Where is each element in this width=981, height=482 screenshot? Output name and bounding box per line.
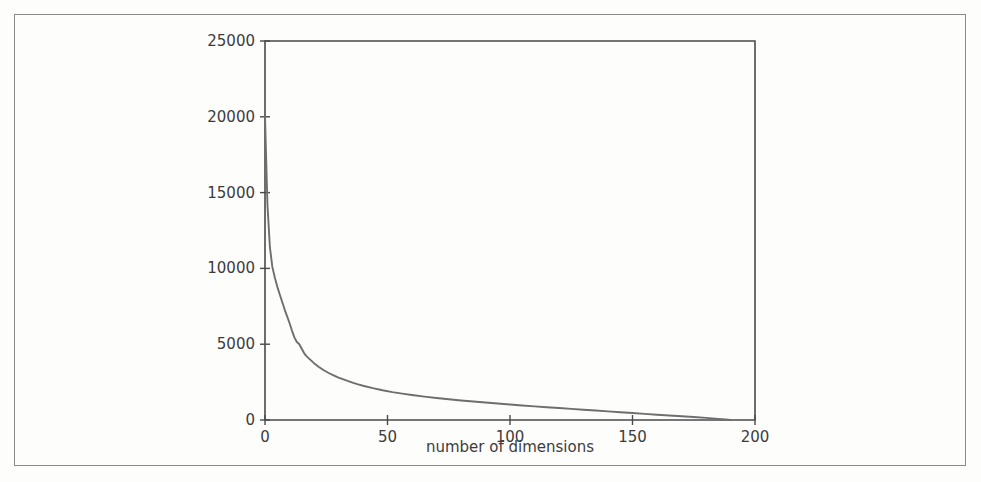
x-tick-label: 150 xyxy=(618,428,647,446)
x-tick-label: 200 xyxy=(741,428,770,446)
y-axis-ticks: 0500010000150002000025000 xyxy=(207,32,270,429)
x-tick-label: 0 xyxy=(260,428,270,446)
x-axis-title: number of dimensions xyxy=(426,438,594,456)
plot-frame xyxy=(265,41,755,420)
eigenvalue-decay-curve xyxy=(265,117,731,420)
axis-frame-path xyxy=(265,41,755,420)
y-tick-label: 10000 xyxy=(207,259,255,277)
y-tick-label: 20000 xyxy=(207,108,255,126)
chart-figure: 0500010000150002000025000 050100150200 n… xyxy=(0,0,981,482)
y-tick-label: 5000 xyxy=(217,335,255,353)
y-tick-label: 0 xyxy=(245,411,255,429)
y-tick-label: 25000 xyxy=(207,32,255,50)
y-tick-label: 15000 xyxy=(207,184,255,202)
x-tick-label: 50 xyxy=(378,428,397,446)
scree-plot-svg: 0500010000150002000025000 050100150200 n… xyxy=(0,0,981,482)
scanned-page-background: 0500010000150002000025000 050100150200 n… xyxy=(0,0,981,482)
